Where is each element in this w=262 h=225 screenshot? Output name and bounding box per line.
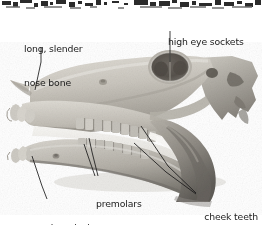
label-nose-bone-line1: long, slender xyxy=(24,43,83,54)
skull-figure: long, slender nose bone high eye sockets… xyxy=(0,0,262,225)
scan-artifact-strip xyxy=(0,0,262,12)
label-cheek-teeth-line1: cheek teeth xyxy=(204,211,258,222)
label-incisors-line1: sharp incisors xyxy=(46,222,108,225)
label-nose-bone-line2: nose bone xyxy=(24,77,83,88)
label-eye-sockets-line1: high eye sockets xyxy=(168,36,244,47)
label-eye-sockets: high eye sockets xyxy=(168,14,244,70)
label-nose-bone: long, slender nose bone xyxy=(24,21,83,111)
label-sharp-incisors: sharp incisors xyxy=(46,200,108,225)
label-cheek-teeth: cheek teeth (molars) xyxy=(204,189,258,225)
